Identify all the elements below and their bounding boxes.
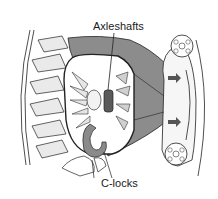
clocks-label: C-locks: [101, 178, 138, 189]
hand: [62, 156, 106, 176]
ring-gear-teeth: [30, 36, 68, 158]
ring-gear-outline: [21, 30, 34, 165]
axleshaft-end-left: [87, 90, 101, 110]
axleshaft-end-right: [104, 90, 113, 112]
bolt-top: [171, 35, 193, 57]
bolt-bottom: [165, 143, 187, 165]
diagram-canvas: Axleshafts C-locks: [0, 0, 218, 199]
axleshafts-label: Axleshafts: [93, 21, 144, 32]
